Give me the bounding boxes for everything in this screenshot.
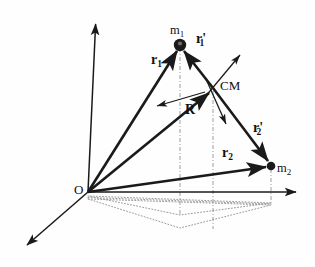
vertical-axis: [88, 24, 96, 192]
cm-arrow-left-icon: [157, 92, 205, 106]
vector-r2-label: r2: [222, 146, 233, 163]
vector-R-label: R: [185, 103, 195, 117]
mass1-label: m1: [170, 24, 184, 39]
vector-r1: [88, 51, 177, 192]
vector-r2-prime-label: r'2: [253, 121, 261, 138]
vector-r1-prime: [184, 51, 213, 88]
cm-label: CM: [220, 79, 240, 92]
position-vectors: [88, 51, 268, 192]
mass2-point: [267, 162, 276, 171]
vector-r1-label: r1: [151, 53, 162, 70]
vector-r1-prime-label: r'1: [196, 32, 204, 49]
vector-diagram-svg: [0, 0, 315, 267]
mass2-label: m2: [277, 162, 291, 177]
figure-canvas: m1 m2 CM O r1 r2 r'1 r'2 R: [0, 0, 315, 267]
mass1-point-highlight: [178, 41, 182, 45]
origin-label: O: [74, 183, 83, 196]
oblique-axis: [27, 192, 88, 245]
